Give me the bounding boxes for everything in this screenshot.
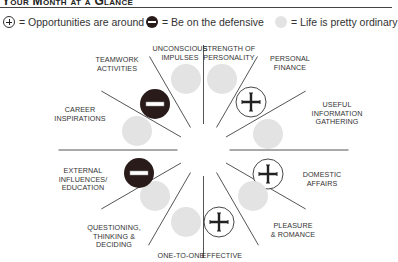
gray-circle-icon bbox=[238, 181, 268, 211]
sector-label-line: ACTIVITIES bbox=[95, 65, 138, 74]
sector-label: QUESTIONING,THINKING &DECIDING bbox=[87, 224, 141, 250]
sector-label-line: FINANCE bbox=[270, 64, 310, 73]
gray-circle-icon bbox=[122, 116, 152, 146]
gray-circle-icon bbox=[171, 207, 201, 237]
sector-label: STRENGTH OFPERSONALITY bbox=[203, 45, 256, 62]
plus-circle-icon bbox=[236, 87, 266, 117]
sector-label-line: EDUCATION bbox=[59, 184, 108, 193]
sector-label-line: INSPIRATIONS bbox=[54, 115, 105, 124]
minus-circle-icon bbox=[140, 89, 170, 119]
sector-label: PLEASURE& ROMANCE bbox=[271, 222, 315, 239]
sector-label-line: PERSONALITY bbox=[203, 54, 256, 63]
gray-circle-icon bbox=[171, 64, 201, 94]
sector-label: EFFECTIVE bbox=[202, 252, 242, 261]
sector-label-line: GATHERING bbox=[312, 118, 363, 127]
gray-circle-icon bbox=[253, 119, 283, 149]
sector-label: CAREERINSPIRATIONS bbox=[54, 106, 105, 123]
sector-label: USEFULINFORMATIONGATHERING bbox=[312, 101, 363, 127]
sector-label: PERSONALFINANCE bbox=[270, 55, 310, 72]
sector-label-line: DECIDING bbox=[87, 241, 141, 250]
plus-circle-icon bbox=[204, 207, 234, 237]
sector-label-line: AFFAIRS bbox=[303, 180, 342, 189]
sector-label: EXTERNALINFLUENCES/EDUCATION bbox=[59, 167, 108, 193]
sector-label-line: ONE-TO-ONE bbox=[158, 252, 205, 261]
sector-label: DOMESTICAFFAIRS bbox=[303, 171, 342, 188]
minus-circle-icon bbox=[124, 158, 154, 188]
gray-circle-icon bbox=[207, 64, 237, 94]
sector-label: UNCONSCIOUSIMPULSES bbox=[152, 45, 207, 62]
sector-label: TEAMWORKACTIVITIES bbox=[95, 56, 138, 73]
sector-label-line: EFFECTIVE bbox=[202, 252, 242, 261]
sector-label-line: & ROMANCE bbox=[271, 231, 315, 240]
sector-label: ONE-TO-ONE bbox=[158, 252, 205, 261]
sector-label-line: IMPULSES bbox=[152, 54, 207, 63]
